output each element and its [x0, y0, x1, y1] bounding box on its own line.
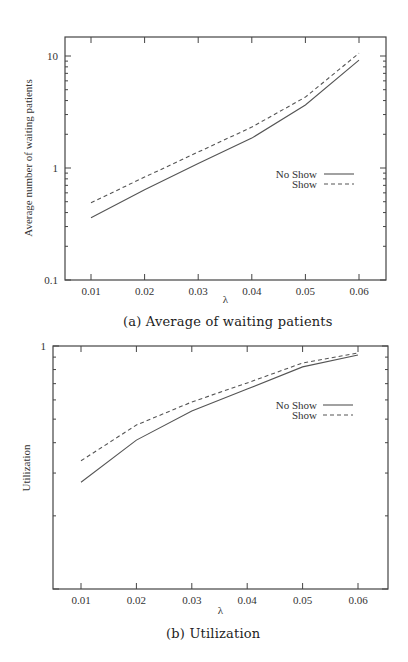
plot-frame: [53, 346, 388, 589]
legend-label: Show: [292, 409, 317, 421]
chart-utilization: 0.010.020.030.040.050.061λUtilizationNo …: [20, 340, 388, 616]
y-tick-label: 1: [41, 340, 47, 352]
x-tick-label: 0.03: [189, 285, 209, 297]
x-tick-label: 0.06: [348, 594, 368, 606]
figure-canvas: 0.010.020.030.040.050.060.1110λAverage n…: [0, 0, 408, 662]
x-tick-label: 0.04: [238, 594, 258, 606]
legend-label: Show: [292, 178, 317, 190]
x-axis-label: λ: [223, 293, 229, 305]
series-show-line: [91, 53, 359, 203]
y-axis-label: Utilization: [20, 444, 32, 492]
x-tick-label: 0.02: [127, 594, 146, 606]
x-tick-label: 0.04: [242, 285, 262, 297]
y-tick-label: 0.1: [44, 274, 58, 286]
legend: No ShowShow: [276, 399, 353, 421]
caption-a: (a) Average of waiting patients: [123, 314, 333, 329]
x-tick-label: 0.05: [296, 285, 316, 297]
x-tick-label: 0.06: [349, 285, 369, 297]
x-tick-label: 0.03: [182, 594, 202, 606]
series-no-show-line: [91, 60, 359, 218]
x-axis-label: λ: [218, 604, 224, 616]
y-axis-label: Average number of waiting patients: [22, 79, 34, 236]
y-tick-label: 10: [47, 50, 59, 62]
x-tick-label: 0.01: [81, 285, 100, 297]
legend: No ShowShow: [276, 168, 354, 190]
x-tick-label: 0.05: [293, 594, 313, 606]
x-tick-label: 0.02: [135, 285, 154, 297]
y-tick-label: 1: [53, 162, 59, 174]
chart-average-waiting-patients: 0.010.020.030.040.050.060.1110λAverage n…: [22, 37, 386, 305]
caption-b: (b) Utilization: [166, 626, 260, 641]
x-tick-label: 0.01: [71, 594, 90, 606]
plot-frame: [65, 37, 386, 280]
